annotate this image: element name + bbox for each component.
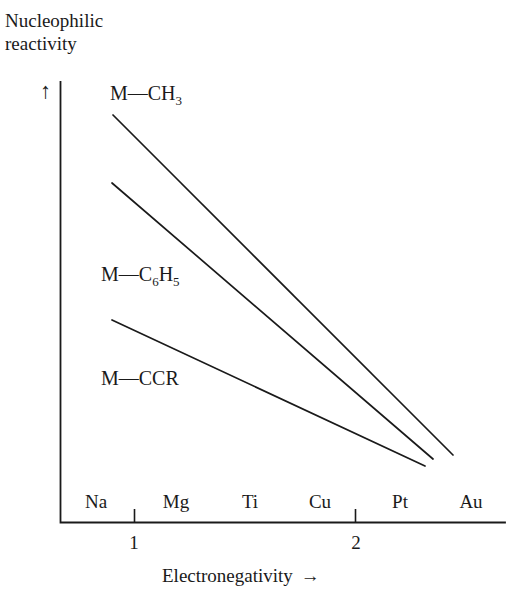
series-line-alkynyl [112,320,425,466]
x-axis-title: Electronegativity→ [162,565,320,586]
series-label-phenyl-main-a: M—C [101,263,152,285]
chart-axes [61,82,506,523]
y-axis-title-line1: Nucleophilic [5,10,103,31]
chart-figure: Nucleophilic reactivity ↑ 1 2 Na Mg Ti C… [0,0,517,601]
series-label-alkynyl: M—CCR [101,367,179,389]
series-line-phenyl [112,183,433,459]
series-label-phenyl: M—C6H5 [101,263,180,289]
x-axis-title-text: Electronegativity [162,565,293,586]
y-axis-title-line2: reactivity [5,33,77,54]
category-label-na: Na [85,491,108,512]
series-label-methyl-main: M—CH [110,82,176,104]
x-axis-tick-label-2: 2 [351,532,361,553]
category-label-mg: Mg [163,491,190,512]
category-label-pt: Pt [392,491,409,512]
series-label-phenyl-subscript-b: 5 [173,274,180,289]
x-axis-tick-label-1: 1 [129,532,139,553]
category-label-cu: Cu [309,491,332,512]
category-label-au: Au [459,491,483,512]
series-label-methyl-subscript: 3 [176,93,183,108]
x-axis-arrow-icon: → [301,565,320,586]
series-label-methyl: M—CH3 [110,82,182,108]
series-line-methyl [113,115,453,455]
series-label-phenyl-main-b: H [159,263,173,285]
category-label-ti: Ti [242,491,258,512]
y-axis-arrow-icon: ↑ [40,78,51,103]
